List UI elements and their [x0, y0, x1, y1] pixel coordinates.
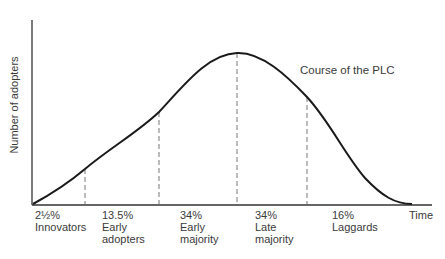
segment-name-line2: adopters — [102, 233, 145, 245]
segment-percent: 2½% — [35, 209, 86, 221]
segment-name: Late — [255, 221, 294, 233]
segment-name: Early — [102, 221, 145, 233]
segment-innovators: 2½% Innovators — [35, 209, 86, 233]
segment-name-line2: majority — [255, 233, 294, 245]
curve-label: Course of the PLC — [300, 64, 395, 76]
segment-percent: 16% — [332, 209, 378, 221]
x-axis-label: Time — [409, 209, 433, 221]
segment-dividers — [85, 53, 307, 205]
segment-percent: 13.5% — [102, 209, 145, 221]
segment-percent: 34% — [255, 209, 294, 221]
diffusion-curve-diagram: Number of adopters Course of the PLC Tim… — [0, 0, 445, 259]
segment-early-adopters: 13.5% Early adopters — [102, 209, 145, 245]
segment-early-majority: 34% Early majority — [180, 209, 219, 245]
segment-name-line2: majority — [180, 233, 219, 245]
segment-name: Laggards — [332, 221, 378, 233]
segment-name: Innovators — [35, 221, 86, 233]
segment-laggards: 16% Laggards — [332, 209, 378, 233]
segment-late-majority: 34% Late majority — [255, 209, 294, 245]
segment-name: Early — [180, 221, 219, 233]
segment-percent: 34% — [180, 209, 219, 221]
y-axis-label: Number of adopters — [8, 56, 20, 153]
